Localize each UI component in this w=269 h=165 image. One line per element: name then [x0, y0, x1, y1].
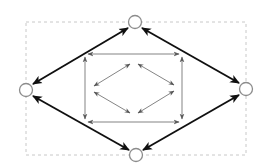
edge-diamond-bottom-left [94, 92, 130, 113]
node-right [240, 83, 253, 96]
nested-diamond-lattice-svg [0, 0, 269, 165]
node-bottom [130, 149, 143, 162]
edge-diamond-bottom-right [138, 91, 174, 113]
outer-diamond-edges [33, 28, 239, 150]
diagram-canvas [0, 0, 269, 165]
edge-outer-top-left [33, 28, 128, 84]
node-left [20, 84, 33, 97]
graph-nodes [20, 16, 253, 162]
edge-diamond-top-right [138, 64, 174, 85]
edge-diamond-top-left [94, 64, 130, 86]
inner-diamond-edges [94, 64, 174, 113]
node-top [129, 16, 142, 29]
inner-rectangle-edges [85, 54, 182, 122]
edge-outer-bottom-right [143, 95, 239, 150]
dashed-bounding-box [26, 22, 246, 155]
